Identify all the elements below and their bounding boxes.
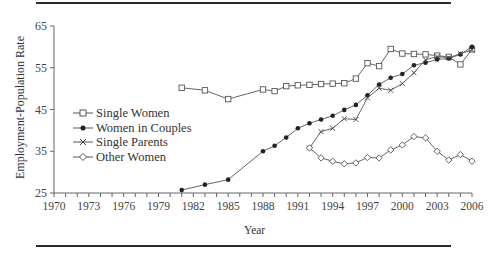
y-axis-label: Employment-Population Rate [13,18,28,198]
series-other-women [306,133,475,167]
open-diamond-marker-icon [72,152,94,162]
series-single-women [179,46,475,102]
x-tick-label: 1982 [182,200,205,212]
y-tick-label: 45 [35,103,47,117]
legend-label: Single Women [96,106,169,121]
x-tick-label: 2000 [391,200,414,212]
y-tick-label: 25 [35,186,47,200]
x-tick-label: 1970 [43,200,66,212]
x-tick-label: 2003 [426,200,449,212]
legend-label: Other Women [96,150,166,165]
legend-label: Single Parents [96,135,168,150]
x-tick-label: 2006 [461,200,484,212]
open-square-marker-icon [72,108,94,118]
legend-item-women-in-couples: Women in Couples [72,121,192,136]
x-tick-label: 1985 [217,200,240,212]
x-tick-label: 1991 [286,200,309,212]
x-tick-label: 1973 [77,200,100,212]
x-tick-label: 1979 [147,200,170,212]
chart-legend: Single Women Women in Couples Single Par… [72,106,192,164]
y-tick-label: 55 [35,61,47,75]
legend-item-single-women: Single Women [72,106,192,121]
x-axis-label: Year [244,224,265,236]
x-tick-label: 1976 [112,200,135,212]
y-tick-label: 35 [35,144,47,158]
x-marker-icon [72,137,94,147]
series-women-in-couples [179,45,474,193]
series-single-parents [307,48,475,151]
x-tick-label: 1988 [252,200,275,212]
legend-item-single-parents: Single Parents [72,135,192,150]
x-tick-label: 1997 [356,200,379,212]
legend-item-other-women: Other Women [72,150,192,165]
y-tick-label: 65 [35,19,47,33]
x-tick-label: 1994 [321,200,344,212]
legend-label: Women in Couples [96,121,192,136]
filled-circle-marker-icon [72,123,94,133]
